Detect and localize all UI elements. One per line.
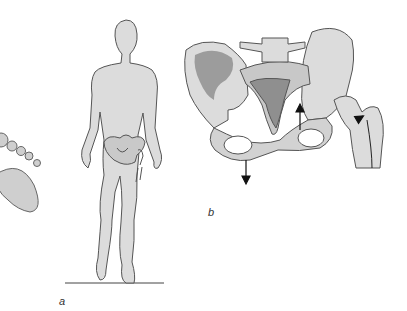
pelvis-illustration (185, 28, 384, 168)
panel-label-a: a (59, 295, 65, 307)
panel-label-b: b (208, 206, 214, 218)
footprint-icon (0, 133, 41, 212)
anatomy-diagram (0, 0, 407, 311)
